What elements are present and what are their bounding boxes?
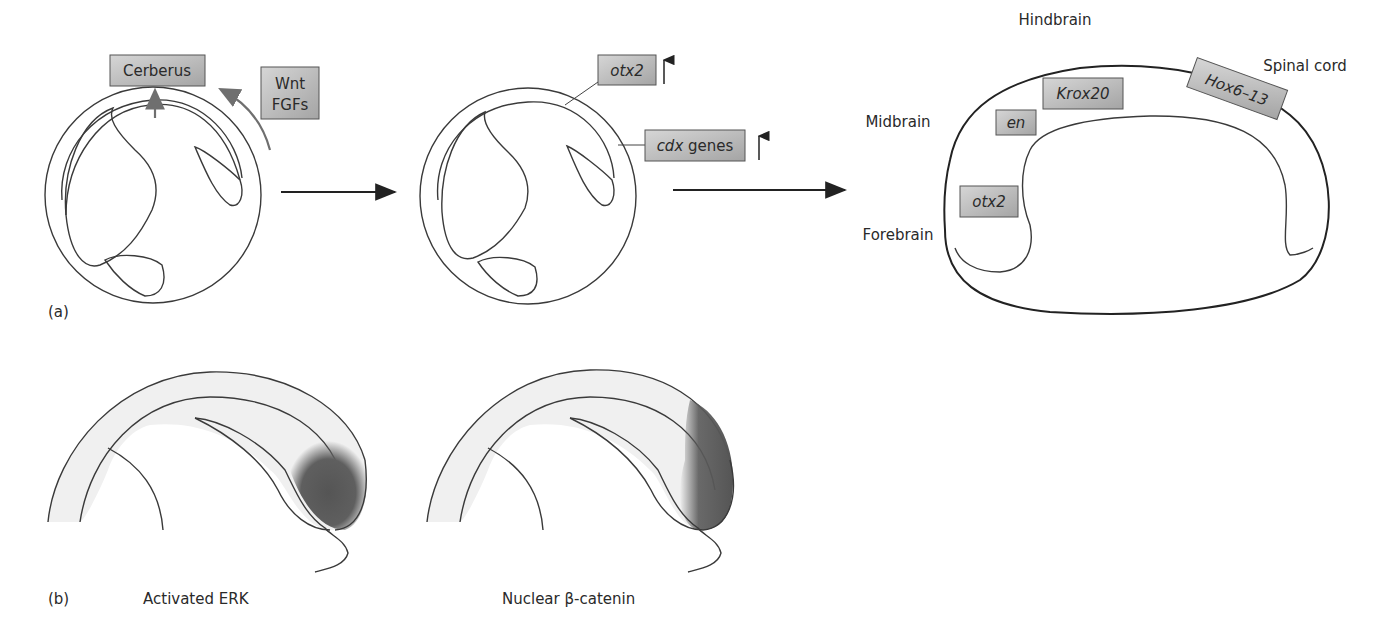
stage2-embryo xyxy=(420,88,636,304)
embryo-inner-outline xyxy=(65,108,156,266)
archenteron-line xyxy=(488,448,543,530)
midbrain-label: Midbrain xyxy=(865,113,930,131)
en-label: en xyxy=(1007,114,1026,132)
panel-b-label: (b) xyxy=(48,590,69,608)
en-label-box: en xyxy=(996,110,1036,135)
hindbrain-label: Hindbrain xyxy=(1018,11,1091,29)
blastopore-lip-bottom xyxy=(105,255,164,296)
forebrain-label: Forebrain xyxy=(863,226,934,244)
fgfs-label: FGFs xyxy=(272,96,309,114)
erk-signal-shading xyxy=(290,436,367,530)
otx2-label: otx2 xyxy=(610,62,643,80)
panel-a-label: (a) xyxy=(48,303,69,321)
erk-embryo-section xyxy=(48,372,367,572)
embryo-inner-outline xyxy=(442,112,528,259)
activated-erk-caption: Activated ERK xyxy=(143,590,250,608)
krox20-label: Krox20 xyxy=(1056,85,1109,103)
cdx-genes-label: cdx genes xyxy=(657,137,734,155)
wnt-label: Wnt xyxy=(275,75,305,93)
beta-catenin-embryo-section xyxy=(427,370,733,572)
blastopore-lip-bottom xyxy=(478,257,537,296)
blastopore-lip-right xyxy=(567,146,614,205)
krox20-label-box: Krox20 xyxy=(1043,78,1123,109)
otx2-label-box-stage3: otx2 xyxy=(960,186,1018,217)
neural-tube-inner xyxy=(62,100,242,200)
neural-plate-fold xyxy=(66,104,240,215)
stage1-embryo xyxy=(45,87,261,303)
wnt-fgf-label-box: Wnt FGFs xyxy=(261,67,319,119)
spinal-cord-label: Spinal cord xyxy=(1263,57,1347,75)
cerberus-label-box: Cerberus xyxy=(110,55,205,86)
nuclear-beta-catenin-caption: Nuclear β-catenin xyxy=(502,590,635,608)
archenteron-line xyxy=(108,448,163,530)
embryo-outer-outline xyxy=(45,87,261,303)
otx2-stage3-label: otx2 xyxy=(972,193,1005,211)
beta-catenin-signal-shading xyxy=(680,400,733,530)
cdx-label-box: cdx genes xyxy=(645,130,745,161)
blastopore-lip-right xyxy=(195,147,242,205)
neural-tube-inner xyxy=(438,102,614,200)
neural-tube-inner xyxy=(1030,116,1313,255)
cerberus-label: Cerberus xyxy=(123,62,191,80)
embryo-patterning-figure: Cerberus Wnt FGFs (a) otx2 cdx genes Hin… xyxy=(0,0,1399,629)
otx2-label-box-stage2: otx2 xyxy=(598,55,656,85)
